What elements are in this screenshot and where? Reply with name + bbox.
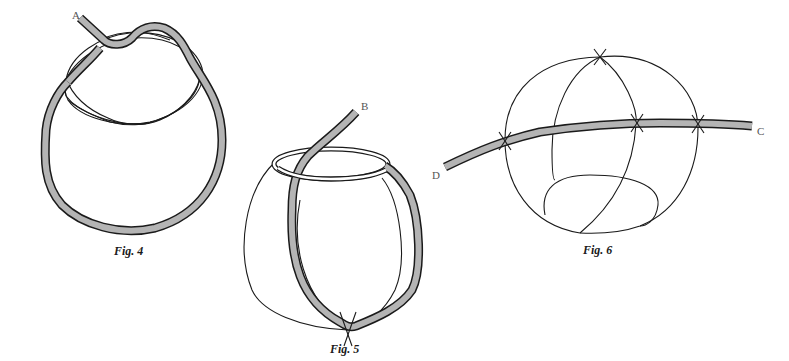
rope-cd — [445, 123, 752, 167]
end-label-b: B — [361, 100, 368, 112]
right-half-outline — [580, 56, 698, 233]
knot-diagram: A Fig. 4 B Fig. 5 — [0, 0, 789, 361]
figure-5: B Fig. 5 — [244, 100, 418, 356]
end-label-c: C — [757, 125, 764, 137]
end-label-d: D — [432, 169, 440, 181]
figure-caption: Fig. 4 — [113, 244, 143, 258]
figure-caption: Fig. 5 — [329, 342, 359, 356]
lower-loop — [544, 175, 658, 226]
rope-b — [292, 112, 419, 327]
figure-caption: Fig. 6 — [582, 243, 612, 257]
figure-4: A Fig. 4 — [45, 9, 222, 258]
end-label-a: A — [72, 9, 80, 21]
figure-6: C D Fig. 6 — [432, 49, 764, 257]
meridian-left — [552, 57, 600, 180]
meridian-right — [580, 57, 636, 233]
